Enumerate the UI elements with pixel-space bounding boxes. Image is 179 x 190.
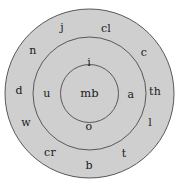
outer-ring-label-w: w [21,116,31,129]
outer-ring-label-d: d [15,84,22,97]
inner-ring-label-i: i [87,56,91,69]
diagram-container: jclncdthwlcrtb iuao mb [0,0,179,190]
inner-ring-label-a: a [128,88,135,101]
concentric-circles-diagram: jclncdthwlcrtb iuao mb [0,0,179,190]
outer-ring-label-cl: cl [101,22,111,35]
inner-ring-label-u: u [43,87,50,100]
outer-ring-label-l: l [148,116,152,129]
outer-ring-label-th: th [149,85,161,98]
center-node-label: mb [80,86,98,100]
outer-ring-label-t: t [122,147,127,160]
outer-ring-label-b: b [85,159,92,172]
inner-ring-label-o: o [86,120,93,133]
outer-ring-label-cr: cr [44,146,56,159]
outer-ring-label-n: n [29,44,36,57]
outer-ring-label-c: c [141,46,147,59]
